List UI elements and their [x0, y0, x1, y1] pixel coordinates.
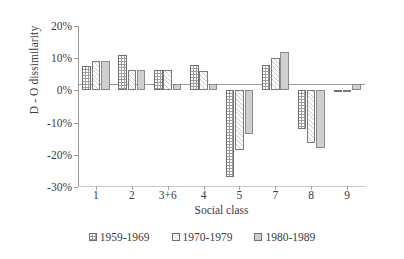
bar-5-1970-1979	[235, 90, 244, 150]
legend-item-1959-1969[interactable]: 1959-1969	[89, 231, 150, 243]
x-axis-tick-labels: 123+645789	[78, 189, 365, 205]
legend-swatch-icon	[254, 233, 262, 241]
bar-3plus6-1970-1979	[163, 70, 172, 91]
bar-8-1970-1979	[307, 90, 316, 143]
bar-4-1959-1969	[190, 65, 199, 91]
x-tick-label: 9	[344, 189, 350, 201]
bar-7-1970-1979	[271, 58, 280, 90]
y-tick-mark	[74, 123, 78, 124]
bar-8-1980-1989	[316, 90, 325, 148]
x-tick-label: 7	[272, 189, 278, 201]
legend-label: 1970-1979	[183, 231, 233, 243]
chart-figure: D - O dissimilarity 20%10%0%-10%-20%-30%…	[0, 0, 404, 259]
bar-5-1959-1969	[226, 90, 235, 177]
y-axis-tick-labels: 20%10%0%-10%-20%-30%	[0, 0, 78, 259]
bar-1-1980-1989	[101, 61, 110, 90]
bar-4-1970-1979	[199, 71, 208, 90]
y-tick-label: 20%	[51, 20, 72, 32]
x-axis-title: Social class	[78, 204, 365, 216]
x-tick-label: 4	[201, 189, 207, 201]
y-tick-mark	[74, 155, 78, 156]
x-tick-label: 5	[237, 189, 243, 201]
legend-label: 1980-1989	[265, 231, 315, 243]
y-tick-label: 0%	[57, 84, 72, 96]
y-tick-mark	[74, 187, 78, 188]
x-tick-label: 8	[308, 189, 314, 201]
bar-1-1959-1969	[82, 66, 91, 90]
bar-5-1980-1989	[245, 90, 254, 134]
bar-9-1980-1989	[352, 84, 361, 90]
bar-7-1980-1989	[280, 52, 289, 91]
legend-swatch-icon	[89, 233, 97, 241]
y-tick-mark	[74, 58, 78, 59]
plot-area	[78, 26, 365, 187]
bar-9-1959-1969	[334, 90, 343, 92]
bar-2-1959-1969	[118, 55, 127, 90]
bar-1-1970-1979	[92, 61, 101, 90]
bar-3plus6-1980-1989	[173, 84, 182, 90]
y-tick-label: -10%	[47, 117, 72, 129]
legend-swatch-icon	[172, 233, 180, 241]
legend-item-1980-1989[interactable]: 1980-1989	[254, 231, 315, 243]
bar-9-1970-1979	[343, 90, 352, 92]
bar-8-1959-1969	[298, 90, 307, 129]
y-axis-line	[78, 26, 79, 187]
y-tick-label: -20%	[47, 149, 72, 161]
y-tick-label: 10%	[51, 52, 72, 64]
bar-7-1959-1969	[262, 65, 271, 91]
bar-2-1980-1989	[137, 70, 146, 91]
legend-item-1970-1979[interactable]: 1970-1979	[172, 231, 233, 243]
bar-2-1970-1979	[128, 70, 137, 91]
chart-legend: 1959-19691970-19791980-1989	[0, 231, 404, 243]
x-tick-label: 1	[93, 189, 99, 201]
y-tick-label: -30%	[47, 181, 72, 193]
x-tick-label: 3+6	[159, 189, 177, 201]
bar-4-1980-1989	[209, 84, 218, 90]
bar-3plus6-1959-1969	[154, 70, 163, 91]
plot-bottom-line	[78, 186, 365, 187]
y-tick-mark	[74, 26, 78, 27]
y-tick-mark	[74, 90, 78, 91]
legend-label: 1959-1969	[100, 231, 150, 243]
x-tick-label: 2	[129, 189, 135, 201]
